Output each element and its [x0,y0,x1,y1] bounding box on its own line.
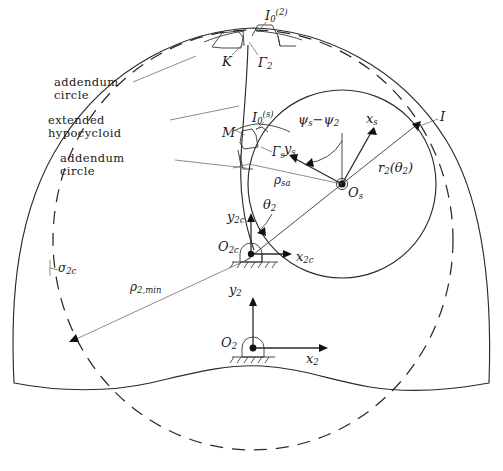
frame-Os-axes [289,127,377,190]
label-r2-theta2: r2(θ2) [378,161,413,177]
leader-Gamma2 [249,42,258,55]
label-theta-2: θ2 [263,198,276,214]
label-x-2c: x2c [296,250,314,266]
label-O-2c: O2c [218,240,239,256]
label-x-s: xs [366,112,378,128]
leader-addendum-lower [175,160,246,168]
rho-2min-line [72,258,251,341]
label-y-2c: y2c [227,210,245,226]
geometry-drawing [0,0,503,471]
leader-addendum-upper [133,56,196,82]
label-Gamma-2: Γ2 [258,56,272,72]
label-psi-difference: ψs−ψ2 [298,113,339,129]
label-M: M [222,126,235,141]
label-K: K [222,55,232,70]
diagram-canvas: I0(2) K Γ2 addendum circle extended hypo… [0,0,503,471]
label-extended-hypocycloid: extended hypocycloid [48,114,122,140]
label-addendum-circle-upper: addendum circle [54,76,119,102]
ground-hatch-2 [230,357,269,363]
label-O-2: O2 [221,336,237,352]
leader-GammaS [261,147,272,152]
origin-O2c-dot [248,251,254,257]
x-s-axis [342,129,373,184]
label-sigma-2c: σ2c [58,262,76,277]
label-x-2: x2 [306,352,319,368]
label-addendum-circle-lower: addendum circle [60,152,125,178]
label-I-point: I [440,110,445,125]
origin-O2-dot [250,345,257,352]
label-O-s: Os [348,186,363,202]
label-rho-2min: ρ2,min [130,281,161,296]
label-y-s: ys [284,142,296,158]
label-rho-sa: ρsa [274,174,291,189]
label-Gamma-s: Γs [272,146,285,161]
label-I0-2: I0(2) [265,8,288,25]
label-y-2: y2 [229,283,242,299]
label-I0-s: I0(s) [252,110,274,127]
theta2-arc [259,214,272,231]
leader-K [232,44,243,55]
theta2-ray [244,184,342,262]
rho-sa-line [249,164,342,184]
ground-hatch-2c [230,262,276,268]
leader-hypocycloid [170,106,239,120]
